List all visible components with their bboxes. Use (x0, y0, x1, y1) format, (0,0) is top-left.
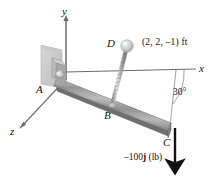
axis-label-y: y (62, 6, 67, 17)
statics-diagram-figure: y x z A B C D (2, 2, –1) ft 30° –100j (l… (0, 0, 214, 178)
angle-label-30: 30° (173, 88, 186, 98)
load-label: –100j (lb) (124, 153, 162, 163)
point-label-b: B (104, 110, 111, 121)
point-label-a: A (36, 84, 43, 95)
load-magnitude: –100 (124, 152, 143, 162)
load-units: (lb) (146, 152, 162, 162)
point-label-d: D (107, 38, 115, 49)
x-axis (66, 69, 196, 72)
point-label-c: C (163, 137, 170, 148)
axis-label-x: x (199, 63, 204, 74)
axis-label-z: z (10, 126, 14, 137)
coordinate-label-d: (2, 2, –1) ft (142, 38, 188, 48)
angle-30-indicator (170, 70, 184, 126)
rod-bd (109, 40, 134, 108)
